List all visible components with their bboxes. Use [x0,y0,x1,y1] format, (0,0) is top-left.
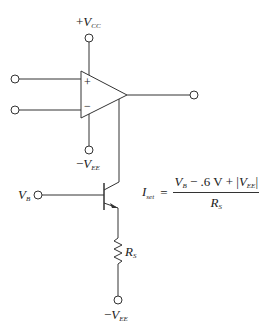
formula-lhs: Iset [142,184,154,201]
num-vee-symbol: V [239,174,247,189]
circuit-schematic [0,0,263,331]
vcc-terminal [85,34,93,42]
vcc-label: +VCC [76,15,101,30]
vee-bottom-terminal [114,296,122,304]
formula-denominator: RS [211,193,222,211]
formula-equals: = [160,185,167,201]
vee-bottom-label: −VEE [104,308,128,323]
den-subscript: S [218,203,222,211]
inverting-input-terminal [11,106,19,114]
opamp-minus-sign: − [84,100,91,112]
vb-label: VB [18,188,30,203]
formula-numerator: VB − .6 V + |VEE| [173,174,259,193]
vee-bottom-subscript: EE [119,315,128,323]
output-terminal [190,91,198,99]
opamp-plus-sign: + [84,76,91,88]
formula-lhs-subscript: set [146,193,154,201]
vcc-subscript: CC [91,22,100,30]
vb-terminal [34,191,42,199]
noninverting-input-terminal [11,75,19,83]
num-end: | [255,174,258,189]
vee-opamp-label: −VEE [76,157,100,172]
collector-lead [104,182,119,190]
vb-subscript: B [26,195,30,203]
vb-symbol: V [18,187,26,202]
iset-formula: Iset = VB − .6 V + |VEE| RS [142,174,259,211]
vee-opamp-terminal [85,146,93,154]
num-middle: − .6 V + | [187,174,239,189]
rs-symbol: R [125,244,133,259]
vee-opamp-subscript: EE [91,164,100,172]
rs-label: RS [125,245,136,260]
rs-subscript: S [133,252,137,260]
resistor-rs [114,238,122,264]
formula-fraction: VB − .6 V + |VEE| RS [173,174,259,211]
